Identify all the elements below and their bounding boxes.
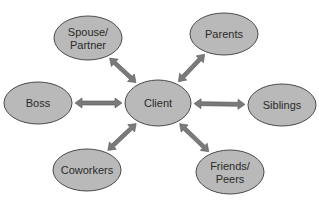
spouse-node-label: Partner (70, 39, 106, 51)
friends-node: Friends/Peers (196, 150, 264, 194)
double-arrow-coworkers (108, 124, 136, 151)
nodes-layer: ClientSpouse/PartnerParentsBossSiblingsC… (4, 13, 316, 194)
parents-node-label: Parents (205, 28, 243, 40)
boss-node-label: Boss (26, 97, 51, 109)
relationship-diagram: ClientSpouse/PartnerParentsBossSiblingsC… (0, 0, 319, 202)
client-node-label: Client (144, 97, 172, 109)
coworkers-node: Coworkers (53, 149, 121, 191)
parents-node: Parents (190, 13, 258, 55)
double-arrow-friends (180, 124, 209, 152)
spouse-node-label: Spouse/ (68, 26, 109, 38)
client-node: Client (125, 80, 191, 126)
siblings-node-label: Siblings (263, 99, 302, 111)
friends-node-label: Friends/ (210, 160, 251, 172)
double-arrow-spouse (110, 58, 136, 83)
siblings-node: Siblings (248, 84, 316, 126)
spouse-node: Spouse/Partner (54, 16, 122, 60)
double-arrow-siblings (194, 99, 245, 110)
double-arrow-boss (75, 98, 122, 108)
coworkers-node-label: Coworkers (61, 164, 114, 176)
double-arrow-parents (178, 54, 204, 81)
friends-node-label: Peers (216, 173, 245, 185)
boss-node: Boss (4, 82, 72, 124)
